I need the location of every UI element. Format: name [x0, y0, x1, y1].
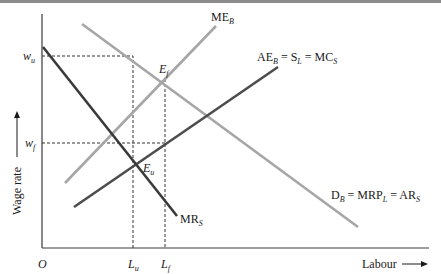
marginal-revenue-curve-mrs [43, 47, 177, 216]
mrs-label: MRS [180, 212, 203, 228]
arrow-right-icon [421, 261, 428, 267]
origin-label: O [38, 257, 47, 271]
monopsony-bilateral-diagram: Wage rate Labour O wu wf Lu Lf Ef Eu MEB… [0, 0, 441, 274]
aeb-label: AEB = SL = MCS [257, 50, 337, 66]
y-axis-label: Wage rate [10, 167, 24, 215]
eu-label: Eu [142, 161, 154, 177]
wf-label: wf [25, 136, 37, 152]
y-axis-title: Wage rate [10, 111, 24, 215]
wu-label: wu [23, 49, 35, 65]
x-axis-label: Labour [362, 257, 397, 271]
average-expense-curve-aeb [74, 67, 278, 207]
ef-label: Ef [158, 62, 170, 78]
arrow-up-icon [14, 111, 20, 118]
db-label: DB = MRPL = ARS [331, 188, 420, 204]
meb-label: MEB [211, 10, 234, 26]
lf-label: Lf [160, 257, 172, 273]
wu-guide-line [42, 56, 133, 248]
lu-label: Lu [127, 257, 139, 273]
